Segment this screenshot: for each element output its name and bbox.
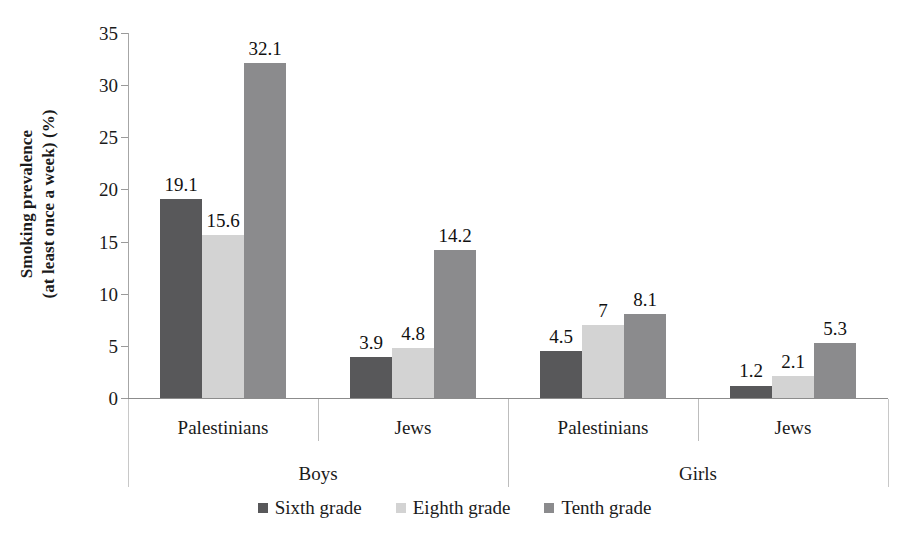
y-axis-tick-label: 15 — [72, 232, 118, 251]
legend-item: Tenth grade — [544, 498, 651, 517]
x-axis-group-label: Palestinians — [130, 418, 316, 437]
y-axis-tick-label: 35 — [72, 24, 118, 43]
x-axis-supergroup-label: Girls — [508, 464, 888, 483]
legend-label: Tenth grade — [561, 498, 651, 517]
y-axis-tick-label: 0 — [72, 389, 118, 408]
legend-label: Sixth grade — [275, 498, 362, 517]
y-axis-tick-label: 25 — [72, 128, 118, 147]
bar-value-label: 8.1 — [618, 290, 672, 309]
legend-label: Eighth grade — [413, 498, 511, 517]
bar-value-label: 5.3 — [808, 319, 862, 338]
bar-value-label: 19.1 — [154, 175, 208, 194]
bar-value-label: 4.8 — [386, 324, 440, 343]
bar — [540, 351, 582, 398]
y-axis-tick-label: 30 — [72, 76, 118, 95]
x-axis-separator — [508, 399, 509, 487]
y-axis-tick-label: 5 — [72, 336, 118, 355]
bar-chart-figure: Smoking prevalence (at least once a week… — [0, 0, 909, 536]
y-axis-title: Smoking prevalence (at least once a week… — [8, 4, 68, 404]
bar — [350, 357, 392, 398]
bar — [772, 376, 814, 398]
bar-value-label: 32.1 — [238, 39, 292, 58]
x-axis-separator — [698, 399, 699, 441]
bar-value-label: 14.2 — [428, 226, 482, 245]
legend-swatch-icon — [544, 503, 554, 513]
plot-area: 19.115.632.13.94.814.24.578.11.22.15.3 — [128, 33, 888, 398]
x-axis-supergroup-label: Boys — [128, 464, 508, 483]
bar — [624, 314, 666, 398]
x-axis-group-label: Jews — [700, 418, 886, 437]
bar-value-label: 2.1 — [766, 352, 820, 371]
y-axis-tick-label: 20 — [72, 180, 118, 199]
y-axis-tick-labels: 05101520253035 — [66, 0, 118, 536]
y-axis-title-line-1: Smoking prevalence — [16, 130, 38, 278]
legend-swatch-icon — [258, 503, 268, 513]
y-axis-title-line-2: (at least once a week) (%) — [38, 109, 60, 298]
bar — [814, 343, 856, 398]
bar — [244, 63, 286, 398]
bar — [582, 325, 624, 398]
chart-legend: Sixth gradeEighth gradeTenth grade — [0, 498, 909, 517]
bar — [392, 348, 434, 398]
bar-value-label: 4.5 — [534, 327, 588, 346]
bar — [730, 386, 772, 399]
x-axis-group-label: Palestinians — [510, 418, 696, 437]
bar-value-label: 15.6 — [196, 211, 250, 230]
bar — [434, 250, 476, 398]
legend-item: Eighth grade — [396, 498, 511, 517]
y-axis-tick-label: 10 — [72, 284, 118, 303]
x-axis-separator — [318, 399, 319, 441]
x-axis-band-edge — [888, 399, 889, 487]
x-axis-band-edge — [128, 399, 129, 487]
legend-item: Sixth grade — [258, 498, 362, 517]
bar — [202, 235, 244, 398]
legend-swatch-icon — [396, 503, 406, 513]
x-axis-group-label: Jews — [320, 418, 506, 437]
